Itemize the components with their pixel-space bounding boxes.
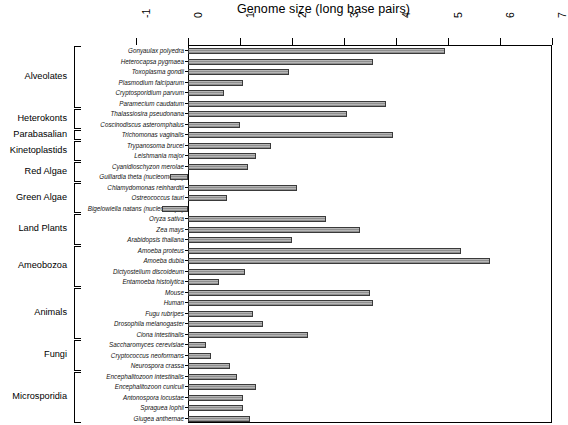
bar-row: Entamoeba histolytica — [0, 277, 563, 288]
group-bracket — [74, 141, 81, 161]
x-axis-tick — [292, 38, 293, 45]
bar-row: Cryptococcus neoformans — [0, 351, 563, 362]
bar-row: Arabidopsis thaliana — [0, 235, 563, 246]
bar — [188, 153, 256, 159]
bar — [188, 258, 490, 264]
bar-row: Encephalitozoon cuniculi — [0, 382, 563, 393]
x-axis-tick-label: 1 — [244, 12, 256, 18]
bar-row: Gonyaulax polyedra — [0, 46, 563, 57]
species-label: Entamoeba histolytica — [122, 277, 184, 288]
group-label: Heterokonts — [17, 113, 67, 123]
species-label: Zea mays — [156, 225, 184, 236]
group-label: Fungi — [44, 349, 67, 359]
bar — [188, 279, 219, 285]
x-axis-tick-label: 2 — [296, 12, 308, 18]
bar — [188, 353, 211, 359]
bar — [188, 164, 248, 170]
bar — [188, 48, 445, 54]
x-axis-tick — [240, 38, 241, 45]
species-label: Gonyaulax polyedra — [128, 46, 184, 57]
group-bracket — [74, 340, 81, 371]
bar — [188, 90, 224, 96]
x-axis-tick-label: 0 — [192, 12, 204, 18]
species-label: Dictyostelium discoideum — [113, 267, 184, 278]
bar — [188, 216, 326, 222]
bar-row: Guillardia theta (nucleomorph) — [0, 172, 563, 183]
bar-row: Thalassiosira pseudonana — [0, 109, 563, 120]
bar — [188, 69, 289, 75]
bar-row: Ciona intestinalis — [0, 330, 563, 341]
x-axis-tick-label: -1 — [140, 9, 152, 18]
bar-row: Cryptosporidium parvum — [0, 88, 563, 99]
bar-row: Zea mays — [0, 225, 563, 236]
species-label: Cyanidioschyzon merolae — [112, 162, 184, 173]
bar-row: Amoeba proteus — [0, 246, 563, 257]
group-bracket — [74, 372, 81, 424]
bar-row: Saccharomyces cerevisiae — [0, 340, 563, 351]
species-label: Thalassiosira pseudonana — [110, 109, 184, 120]
x-axis-tick — [136, 38, 137, 45]
bar-row: Spraguea lophii — [0, 403, 563, 414]
bar — [188, 290, 370, 296]
bar — [188, 237, 292, 243]
bar — [188, 405, 243, 411]
species-label: Paramecium caudatum — [119, 99, 184, 110]
species-label: Spraguea lophii — [140, 403, 184, 414]
species-label: Arabidopsis thaliana — [127, 235, 184, 246]
species-label: Leishmania major — [134, 151, 184, 162]
bar-row: Toxoplasma gondii — [0, 67, 563, 78]
bar-row: Chlamydomonas reinhardtii — [0, 183, 563, 194]
species-label: Encephalitozoon cuniculi — [115, 382, 184, 393]
species-label: Chlamydomonas reinhardtii — [107, 183, 184, 194]
group-label: Alveolates — [25, 71, 67, 81]
bar — [188, 80, 243, 86]
bar-row: Oryza sativa — [0, 214, 563, 225]
bar-row: Dictyostelium discoideum — [0, 267, 563, 278]
x-axis-tick-label: 7 — [556, 12, 568, 18]
bar-row: Heterocapsa pygmaea — [0, 57, 563, 68]
bar — [188, 195, 227, 201]
species-label: Toxoplasma gondii — [132, 67, 184, 78]
bar-row: Neurospora crassa — [0, 361, 563, 372]
bar — [188, 101, 386, 107]
bar-row: Cyanidioschyzon merolae — [0, 162, 563, 173]
species-label: Antonospora locustae — [123, 393, 184, 404]
group-label: Green Algae — [16, 192, 67, 202]
bar — [188, 311, 253, 317]
bar — [188, 374, 237, 380]
group-label: Parabasalian — [13, 129, 67, 139]
bar — [188, 269, 245, 275]
group-label: Microsporidia — [12, 391, 67, 401]
bar-row: Drosophila melanogaster — [0, 319, 563, 330]
group-bracket — [74, 246, 81, 287]
species-label: Trichomonas vaginalis — [122, 130, 184, 141]
bar-row: Paramecium caudatum — [0, 99, 563, 110]
x-axis-tick — [188, 38, 189, 45]
species-label: Glugea anthernae — [134, 414, 184, 425]
group-label: Red Algae — [25, 166, 67, 176]
species-label: Mouse — [165, 288, 184, 299]
bar — [188, 122, 240, 128]
species-label: Ostreococcus tauri — [132, 193, 185, 204]
bar-row: Glugea anthernae — [0, 414, 563, 425]
species-label: Cryptococcus neoformans — [111, 351, 184, 362]
group-label: Land Plants — [18, 223, 67, 233]
bar — [188, 59, 373, 65]
group-label: Animals — [34, 307, 67, 317]
group-bracket — [74, 130, 81, 140]
bar-row: Plasmodium falciparum — [0, 78, 563, 89]
bar — [162, 206, 188, 212]
group-bracket — [74, 46, 81, 108]
x-axis-tick — [500, 38, 501, 45]
bar — [188, 132, 393, 138]
bar — [170, 174, 188, 180]
bar-row: Coscinodiscus asteromphalus — [0, 120, 563, 131]
bar — [188, 384, 256, 390]
bar-row: Trypanosoma brucei — [0, 141, 563, 152]
x-axis-tick-label: 3 — [348, 12, 360, 18]
x-axis-tick — [552, 38, 553, 45]
group-bracket — [74, 109, 81, 129]
bar — [188, 416, 250, 422]
bar-row: Leishmania major — [0, 151, 563, 162]
bar-row: Ostreococcus tauri — [0, 193, 563, 204]
